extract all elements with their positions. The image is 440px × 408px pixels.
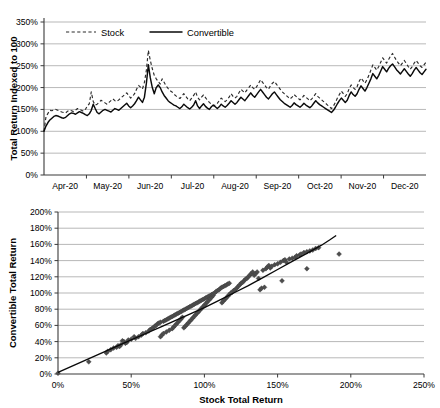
legend-label-convertible: Convertible [187, 28, 234, 38]
line-chart-legend: StockConvertible [66, 28, 234, 38]
scatter-point [304, 266, 309, 271]
x-tick-label: Dec-20 [391, 181, 419, 191]
x-tick-label: 0% [52, 380, 65, 390]
y-tick-label: 300% [16, 39, 38, 49]
x-tick-label: Apr-20 [52, 181, 78, 191]
scatter-point [337, 252, 342, 257]
series-line-stock [44, 50, 426, 131]
line-chart-series-group [44, 50, 426, 131]
y-tick-label: 80% [35, 304, 53, 314]
line-chart-x-tick-labels: Apr-20May-20Jun-20Jul-20Aug-20Sep-20Oct-… [52, 181, 419, 191]
scatter-chart-x-tick-labels: 0%50%100%150%200%250% [52, 380, 436, 390]
y-tick-label: 0% [26, 170, 39, 180]
x-tick-label: Aug-20 [221, 181, 249, 191]
line-chart-y-tick-labels: 0%50%100%150%200%250%300%350% [16, 17, 38, 180]
y-tick-label: 200% [16, 83, 38, 93]
x-tick-label: 50% [123, 380, 141, 390]
line-chart-axes [41, 18, 427, 179]
y-tick-label: 0% [40, 369, 53, 379]
legend-label-stock: Stock [101, 28, 125, 38]
y-tick-label: 140% [30, 256, 52, 266]
x-tick-label: Oct-20 [307, 181, 333, 191]
y-tick-label: 160% [30, 239, 52, 249]
line-chart-indexed-total-return: 0%50%100%150%200%250%300%350% Apr-20May-… [0, 0, 440, 198]
scatter-chart-y-axis-title: Convertible Total Return [7, 238, 18, 348]
y-tick-label: 100% [30, 288, 52, 298]
y-tick-label: 180% [30, 223, 52, 233]
x-tick-label: 200% [340, 380, 362, 390]
scatter-chart-y-tick-labels: 0%20%40%60%80%100%120%140%160%180%200% [30, 207, 52, 379]
scatter-chart-axes [55, 212, 425, 378]
x-tick-label: Jul-20 [181, 181, 205, 191]
figure-root: 0%50%100%150%200%250%300%350% Apr-20May-… [0, 0, 440, 408]
x-tick-label: 100% [193, 380, 215, 390]
y-tick-label: 50% [21, 148, 39, 158]
x-tick-label: 250% [413, 380, 435, 390]
y-tick-label: 40% [35, 337, 53, 347]
y-tick-label: 150% [16, 104, 38, 114]
line-chart-y-axis-title: Total Return Indexed to 100 [8, 37, 19, 161]
y-tick-label: 120% [30, 272, 52, 282]
x-tick-label: Sep-20 [264, 181, 292, 191]
y-tick-label: 250% [16, 61, 38, 71]
y-tick-label: 200% [30, 207, 52, 217]
y-tick-label: 60% [35, 320, 53, 330]
y-tick-label: 20% [35, 353, 53, 363]
line-chart-gridlines [44, 22, 426, 153]
scatter-point [279, 278, 284, 283]
x-tick-label: May-20 [93, 181, 122, 191]
x-tick-label: Nov-20 [348, 181, 376, 191]
scatter-chart-convertible-vs-stock: 0%20%40%60%80%100%120%140%160%180%200% 0… [0, 198, 440, 408]
scatter-chart-canvas: 0%20%40%60%80%100%120%140%160%180%200% 0… [0, 198, 440, 408]
y-tick-label: 100% [16, 126, 38, 136]
x-tick-label: 150% [267, 380, 289, 390]
x-tick-label: Jun-20 [137, 181, 163, 191]
y-tick-label: 350% [16, 17, 38, 27]
scatter-chart-x-axis-title: Stock Total Return [199, 394, 283, 405]
line-chart-canvas: 0%50%100%150%200%250%300%350% Apr-20May-… [0, 0, 440, 198]
